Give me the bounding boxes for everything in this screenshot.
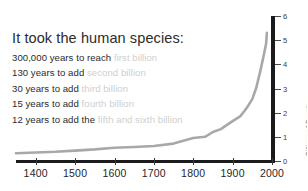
caption-line-faded: third billion [82,83,129,94]
caption-line: 30 years to add third billion [12,81,217,97]
x-axis-tick [154,158,155,165]
x-axis-line [16,160,275,163]
caption-line-lead: 130 years to add [12,67,87,78]
x-axis-tick [36,158,37,165]
y-axis-tick [275,137,281,138]
x-axis-tick [193,158,194,165]
y-axis-tick-label: 6 [283,12,287,21]
caption-line: 15 years to add fourth billion [12,96,217,112]
y-axis-tick [275,16,281,17]
y-axis-title: Billions of People [305,102,308,155]
y-axis-tick-label: 1 [283,132,287,141]
caption-line: 130 years to add second billion [12,65,217,81]
y-axis-tick-label: 0 [283,157,287,166]
caption-line-lead: 12 years to add the [12,114,98,125]
y-axis-tick [275,64,281,65]
caption-line: 12 years to add the fifth and sixth bill… [12,112,217,128]
y-axis-line [271,16,275,163]
caption-line-lead: 15 years to add [12,98,82,109]
y-axis-tick-label: 3 [283,84,287,93]
caption-line: 300,000 years to reach first billion [12,50,217,66]
caption-line-lead: 30 years to add [12,83,82,94]
y-axis-tick [275,40,281,41]
caption-block: It took the human species: 300,000 years… [12,30,217,127]
caption-heading: It took the human species: [12,30,217,47]
population-growth-chart: It took the human species: 300,000 years… [0,0,307,191]
caption-line-faded: fourth billion [82,98,134,109]
x-axis-tick-label: 1800 [181,167,205,179]
y-axis-tick [275,89,281,90]
caption-line-faded: first billion [114,52,157,63]
y-axis-tick [275,161,281,162]
x-axis-tick [233,158,234,165]
x-axis-tick-label: 1900 [221,167,245,179]
x-axis-tick [75,158,76,165]
caption-line-lead: 300,000 years to reach [12,52,114,63]
caption-line-faded: second billion [87,67,146,78]
x-axis-tick-label: 1700 [142,167,166,179]
caption-line-faded: fifth and sixth billion [98,114,183,125]
x-axis-tick-label: 1600 [102,167,126,179]
x-axis-tick-label: 1400 [24,167,48,179]
x-axis-tick [115,158,116,165]
y-axis-tick-label: 4 [283,60,287,69]
y-axis-tick-label: 2 [283,108,287,117]
y-axis-tick-label: 5 [283,36,287,45]
x-axis-tick [272,158,273,165]
x-axis-tick-label: 2000 [260,167,284,179]
y-axis-tick [275,113,281,114]
x-axis-tick-label: 1500 [63,167,87,179]
